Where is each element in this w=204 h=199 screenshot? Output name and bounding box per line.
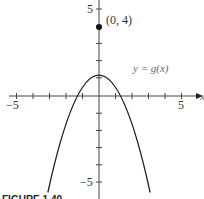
x-max-label: 5 <box>178 98 184 112</box>
parabola-chart: 5 −5 −5 5 x (0, 4) y = g(x) FIGURE 1.40 <box>0 0 204 199</box>
x-min-label: −5 <box>6 98 19 112</box>
x-axis-label: x <box>199 90 204 102</box>
y-min-label: −5 <box>80 175 93 189</box>
figure-caption: FIGURE 1.40 <box>2 194 62 199</box>
y-max-label: 5 <box>87 2 93 16</box>
vertex-point <box>96 24 102 30</box>
vertex-label: (0, 4) <box>106 13 132 27</box>
function-label: y = g(x) <box>132 62 169 75</box>
